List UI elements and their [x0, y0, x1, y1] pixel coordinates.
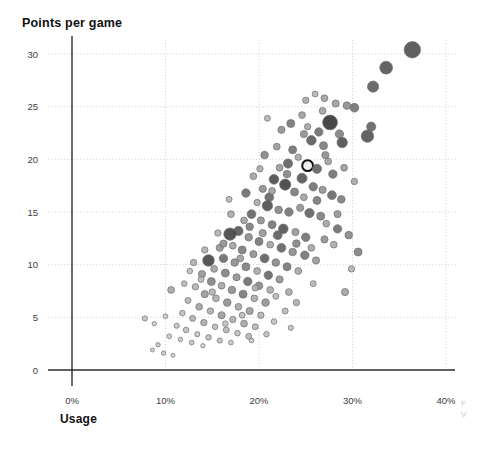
data-point[interactable]	[313, 196, 321, 204]
data-point[interactable]	[309, 183, 317, 191]
data-point[interactable]	[226, 196, 232, 202]
data-point[interactable]	[209, 289, 215, 295]
data-point[interactable]	[207, 278, 215, 286]
data-point[interactable]	[273, 143, 280, 150]
data-point[interactable]	[220, 240, 227, 247]
data-point[interactable]	[198, 276, 204, 282]
data-point[interactable]	[282, 308, 288, 314]
data-point[interactable]	[242, 263, 250, 271]
data-point[interactable]	[268, 221, 276, 229]
data-point[interactable]	[229, 242, 236, 249]
data-point[interactable]	[308, 244, 315, 251]
data-point[interactable]	[275, 206, 283, 214]
data-point[interactable]	[239, 290, 247, 298]
data-point[interactable]	[337, 137, 347, 147]
data-point[interactable]	[228, 211, 235, 218]
data-point[interactable]	[255, 237, 263, 245]
data-point[interactable]	[239, 312, 245, 318]
data-point[interactable]	[285, 208, 293, 216]
data-point[interactable]	[187, 268, 193, 274]
data-point[interactable]	[150, 348, 154, 352]
data-point[interactable]	[254, 199, 260, 205]
data-point[interactable]	[223, 321, 229, 327]
data-point[interactable]	[180, 310, 186, 316]
data-point[interactable]	[323, 220, 330, 227]
data-point[interactable]	[246, 307, 253, 314]
data-point[interactable]	[312, 257, 319, 264]
data-point[interactable]	[295, 154, 301, 160]
data-point[interactable]	[246, 223, 254, 231]
data-point[interactable]	[189, 340, 194, 345]
data-point[interactable]	[278, 126, 285, 133]
data-point[interactable]	[310, 281, 316, 287]
data-point[interactable]	[252, 285, 258, 291]
data-point[interactable]	[168, 287, 175, 294]
data-point[interactable]	[207, 308, 213, 314]
data-point[interactable]	[273, 231, 282, 240]
data-point[interactable]	[264, 331, 270, 337]
data-point[interactable]	[293, 240, 301, 248]
data-point[interactable]	[320, 142, 328, 150]
data-point[interactable]	[292, 228, 299, 235]
data-point[interactable]	[367, 81, 378, 92]
data-point[interactable]	[351, 178, 357, 184]
data-point[interactable]	[262, 299, 270, 307]
data-point[interactable]	[276, 164, 283, 171]
data-point[interactable]	[304, 123, 310, 129]
data-point[interactable]	[201, 291, 208, 298]
data-point[interactable]	[329, 170, 337, 178]
data-point[interactable]	[241, 320, 248, 327]
data-point[interactable]	[325, 158, 332, 165]
data-point[interactable]	[341, 164, 348, 171]
data-point[interactable]	[238, 246, 246, 254]
data-point[interactable]	[302, 233, 310, 241]
data-point[interactable]	[305, 208, 314, 217]
data-point[interactable]	[264, 115, 270, 121]
data-point[interactable]	[259, 185, 266, 192]
data-point[interactable]	[328, 191, 337, 200]
data-point[interactable]	[259, 229, 266, 236]
data-point[interactable]	[233, 274, 240, 281]
data-point[interactable]	[228, 286, 236, 294]
data-point[interactable]	[218, 282, 225, 289]
data-point[interactable]	[337, 196, 345, 204]
data-point[interactable]	[244, 277, 252, 285]
data-point[interactable]	[156, 343, 160, 347]
data-point[interactable]	[195, 332, 200, 337]
data-point[interactable]	[257, 166, 263, 172]
data-point[interactable]	[333, 225, 341, 233]
data-point[interactable]	[317, 212, 325, 220]
data-point[interactable]	[269, 188, 276, 195]
data-point[interactable]	[213, 295, 220, 302]
data-point[interactable]	[142, 316, 147, 321]
data-point[interactable]	[291, 188, 299, 196]
data-point[interactable]	[321, 236, 328, 243]
data-point[interactable]	[287, 120, 295, 128]
data-point[interactable]	[361, 130, 373, 142]
data-point[interactable]	[283, 170, 291, 178]
data-point[interactable]	[192, 284, 198, 290]
data-point[interactable]	[163, 314, 168, 319]
data-point[interactable]	[203, 255, 215, 267]
data-point[interactable]	[178, 337, 182, 341]
data-point[interactable]	[312, 164, 321, 173]
data-point[interactable]	[367, 122, 376, 131]
data-point[interactable]	[297, 173, 307, 183]
data-point[interactable]	[167, 334, 172, 339]
data-point[interactable]	[218, 312, 225, 319]
data-point[interactable]	[230, 316, 236, 322]
data-point[interactable]	[322, 152, 329, 159]
data-point[interactable]	[354, 248, 362, 256]
data-point[interactable]	[257, 217, 264, 224]
data-point[interactable]	[161, 351, 165, 355]
data-point[interactable]	[258, 312, 264, 318]
data-point[interactable]	[332, 100, 339, 107]
data-point[interactable]	[380, 61, 393, 74]
data-point[interactable]	[350, 103, 359, 112]
data-point-highlighted[interactable]	[302, 160, 313, 171]
data-point[interactable]	[242, 189, 250, 197]
data-point[interactable]	[190, 259, 196, 265]
data-point[interactable]	[235, 303, 242, 310]
data-point[interactable]	[273, 293, 279, 299]
data-point[interactable]	[196, 303, 203, 310]
